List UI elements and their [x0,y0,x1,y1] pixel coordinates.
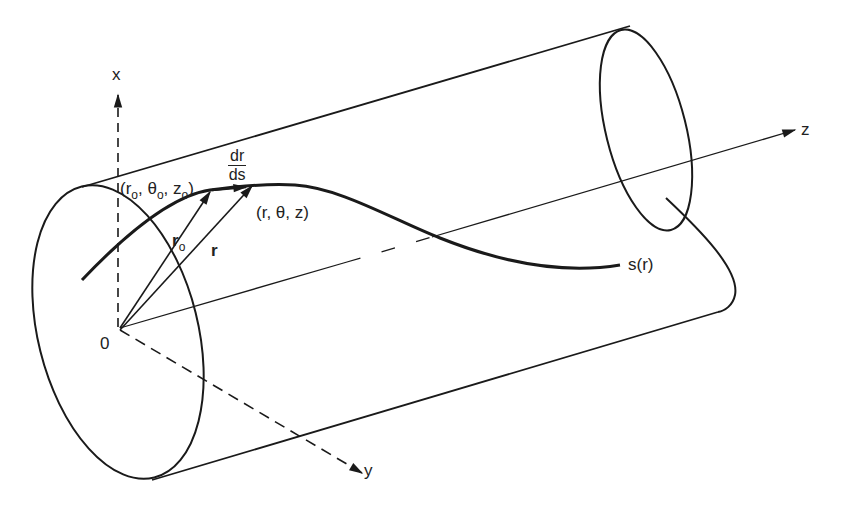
y-axis [120,330,362,473]
tangent-vector [212,187,246,190]
z-axis-label: z [801,121,810,138]
origin-label: 0 [100,335,109,352]
r-vector-label: r [211,242,218,259]
cylinder-bottom-edge [152,312,718,480]
cylinder-right-silhouette [666,198,735,312]
cylinder-top-edge [82,26,630,187]
tangent-numerator: dr [228,148,246,166]
cylinder-diagram [0,0,841,513]
initial-point-label: (ro, θo, zo) [120,180,194,197]
point-label: (r, θ, z) [256,204,309,221]
z-axis-back [432,130,795,237]
tangent-denominator: ds [229,166,246,183]
r0-vector-label: ro [172,232,185,249]
z-axis-front [120,262,347,328]
cylinder-right-end [582,20,709,239]
r0-vector [120,192,210,328]
x-axis-label: x [112,66,121,83]
z-axis-hidden [347,237,432,262]
tangent-label: dr ds [228,148,246,183]
y-axis-label: y [364,462,373,479]
diagram-canvas: x y z 0 s(r) (ro, θo, zo) (r, θ, z) ro r… [0,0,841,513]
curve-label: s(r) [628,256,653,273]
